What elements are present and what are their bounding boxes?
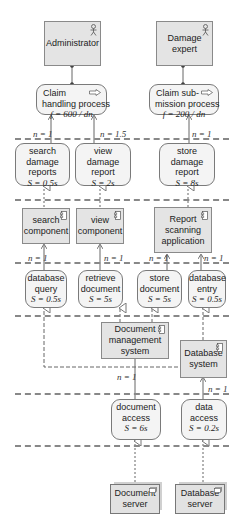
- service-time: S = 5s: [79, 294, 122, 305]
- service-label: document: [79, 284, 122, 295]
- multiplicity-label: n = 1: [33, 129, 53, 139]
- service-label: access: [112, 413, 160, 424]
- process-claim-handling[interactable]: Claim handling process f = 600 / dn: [36, 84, 107, 115]
- component-view[interactable]: view component: [76, 208, 124, 244]
- actor-damage-expert[interactable]: Damage expert: [156, 21, 213, 66]
- node-icon: [149, 487, 157, 493]
- layer-separator: [15, 315, 229, 317]
- service-document-access[interactable]: document access S = 6s: [111, 399, 161, 440]
- service-label: access: [182, 413, 226, 424]
- component-icon: [158, 325, 165, 334]
- service-label: database: [26, 273, 66, 284]
- service-label: report: [76, 167, 130, 178]
- service-label: damage: [16, 157, 69, 168]
- service-time: S = 6s: [112, 423, 160, 434]
- multiplicity-label: n = 1: [28, 253, 48, 263]
- node-icon: [214, 487, 222, 493]
- actor-icon: [202, 24, 209, 36]
- component-label: component: [24, 226, 69, 237]
- service-time: S = 0.5s: [16, 178, 69, 189]
- component-report-scanning-application[interactable]: Report scanning application: [154, 207, 212, 253]
- component-label: view: [91, 215, 109, 226]
- component-label: application: [161, 236, 204, 247]
- component-icon: [216, 343, 223, 352]
- multiplicity-label: n = 1: [204, 253, 224, 263]
- actor-label: Damage expert: [167, 33, 203, 55]
- service-store-damage-report[interactable]: store damage report S = 8s: [159, 143, 215, 186]
- component-label: search: [32, 215, 59, 226]
- multiplicity-label: n = 1.5: [100, 129, 126, 139]
- service-label: document: [138, 284, 181, 295]
- actor-icon: [90, 24, 97, 36]
- system-database[interactable]: Database system: [180, 340, 227, 378]
- component-label: scanning: [165, 225, 201, 236]
- system-label: system: [121, 346, 150, 357]
- service-database-query[interactable]: database query S = 0.5s: [25, 270, 67, 308]
- service-label: retrieve: [79, 273, 122, 284]
- service-time: S = 0.5s: [189, 294, 225, 305]
- service-time: S = 5s: [138, 294, 181, 305]
- system-label: system: [189, 359, 218, 370]
- actor-administrator[interactable]: Administrator: [44, 21, 101, 66]
- process-arrow-icon: [89, 89, 101, 96]
- layer-separator: [15, 393, 229, 395]
- component-icon: [114, 211, 121, 220]
- node-label: server: [122, 499, 147, 510]
- service-data-access[interactable]: data access S = 0.2s: [181, 399, 227, 440]
- service-label: view: [76, 146, 130, 157]
- system-label: management: [109, 335, 162, 346]
- multiplicity-label: n = 1: [192, 129, 212, 139]
- process-arrow-icon: [201, 89, 213, 96]
- service-database-entry[interactable]: database entry S = 0.5s: [188, 270, 226, 308]
- service-store-document[interactable]: store document S = 5s: [137, 270, 182, 308]
- service-search-damage-reports[interactable]: search damage reports S = 0.5s: [15, 143, 70, 186]
- component-label: component: [78, 226, 123, 237]
- service-label: report: [160, 167, 214, 178]
- service-time: S = 0.5s: [26, 294, 66, 305]
- service-label: damage: [76, 157, 130, 168]
- component-icon: [201, 211, 208, 220]
- service-label: reports: [16, 167, 69, 178]
- node-document-server[interactable]: Document server: [110, 484, 160, 514]
- service-label: data: [182, 402, 226, 413]
- system-document-management[interactable]: Document management system: [101, 322, 169, 359]
- service-label: database: [189, 273, 225, 284]
- node-label: server: [187, 499, 212, 510]
- process-frequency: f = 600 / dn: [37, 110, 106, 118]
- service-label: entry: [189, 284, 225, 295]
- multiplicity-label: n = 1: [208, 384, 228, 394]
- service-label: store: [138, 273, 181, 284]
- service-view-damage-report[interactable]: view damage report S = 2s: [75, 143, 131, 186]
- multiplicity-label: n = 1: [104, 253, 124, 263]
- node-database-server[interactable]: Database server: [175, 484, 225, 514]
- service-label: document: [112, 402, 160, 413]
- multiplicity-label: n = 1: [149, 253, 169, 263]
- service-label: store: [160, 146, 214, 157]
- service-time: S = 8s: [160, 178, 214, 189]
- process-claim-submission[interactable]: Claim sub- mission process f = 200 / dn: [149, 84, 219, 115]
- layer-separator: [15, 445, 229, 447]
- service-time: S = 0.2s: [182, 423, 226, 434]
- component-search[interactable]: search component: [22, 208, 70, 244]
- service-label: damage: [160, 157, 214, 168]
- layer-separator: [15, 199, 229, 201]
- service-time: S = 2s: [76, 178, 130, 189]
- component-icon: [60, 211, 67, 220]
- process-frequency: f = 200 / dn: [150, 110, 218, 118]
- service-retrieve-document[interactable]: retrieve document S = 5s: [78, 270, 123, 308]
- service-label: search: [16, 146, 69, 157]
- multiplicity-label: n = 1: [117, 372, 137, 382]
- system-label: Document: [114, 324, 155, 335]
- service-label: query: [26, 284, 66, 295]
- actor-label: Administrator: [46, 38, 99, 49]
- component-label: Report: [169, 214, 196, 225]
